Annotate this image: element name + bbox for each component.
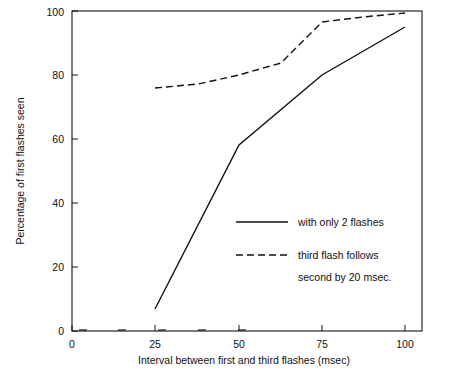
y-tick-label-100: 100 xyxy=(46,6,64,18)
legend-label-dashed-line1: third flash follows xyxy=(298,249,379,261)
y-tick-label-80: 80 xyxy=(52,69,64,81)
y-tick-label-0: 0 xyxy=(58,325,64,337)
legend-label-solid: with only 2 flashes xyxy=(297,216,384,228)
line-chart: 0 20 40 60 80 100 0 25 50 75 100 Interva… xyxy=(0,0,456,371)
y-tick-label-60: 60 xyxy=(52,133,64,145)
y-tick-label-20: 20 xyxy=(52,261,64,273)
y-axis-ticks xyxy=(72,11,78,331)
series-solid-line xyxy=(155,27,405,309)
series-dashed-line xyxy=(155,13,405,88)
chart-page: 0 20 40 60 80 100 0 25 50 75 100 Interva… xyxy=(0,0,456,371)
y-tick-label-40: 40 xyxy=(52,197,64,209)
plot-frame xyxy=(72,11,422,331)
legend: with only 2 flashes third flash follows … xyxy=(236,216,391,283)
x-tick-label-50: 50 xyxy=(233,338,245,350)
x-tick-label-0: 0 xyxy=(69,338,75,350)
x-tick-label-25: 25 xyxy=(149,338,161,350)
x-tick-label-100: 100 xyxy=(396,338,414,350)
legend-label-dashed-line2: second by 20 msec. xyxy=(298,271,391,283)
x-tick-label-75: 75 xyxy=(316,338,328,350)
y-axis-title: Percentage of first flashes seen xyxy=(14,97,26,244)
x-axis-title: Interval between first and third flashes… xyxy=(138,354,350,366)
